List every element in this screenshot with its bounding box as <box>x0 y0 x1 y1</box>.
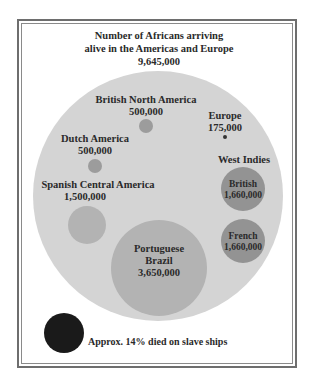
west-indies-british-label: British <box>229 179 258 189</box>
west-indies-british-value: 1,660,000 <box>224 190 262 200</box>
west-indies-label: West Indies <box>218 154 270 165</box>
british-north-america-label: British North America <box>96 94 198 105</box>
bubble-chart: Number of Africans arriving alive in the… <box>0 0 315 382</box>
spanish-central-america-label: Spanish Central America <box>41 179 155 190</box>
spanish-central-america-circle <box>68 206 106 244</box>
chart-title-line-1: Number of Africans arriving <box>95 30 224 41</box>
dutch-america-value: 500,000 <box>78 145 112 156</box>
chart-title-line-2: alive in the Americas and Europe <box>85 43 234 54</box>
europe-label: Europe <box>208 110 241 121</box>
died-on-ships-circle <box>44 313 84 353</box>
dutch-america-label: Dutch America <box>61 133 130 144</box>
portuguese-brazil-value: 3,650,000 <box>138 267 180 278</box>
west-indies-french-value: 1,660,000 <box>224 242 262 252</box>
died-on-ships-label: Approx. 14% died on slave ships <box>88 336 227 347</box>
europe-value: 175,000 <box>208 122 242 133</box>
west-indies-french-label: French <box>229 231 259 241</box>
portuguese-brazil-label-line-2: Brazil <box>145 255 172 266</box>
west-indies-british-circle <box>221 167 265 211</box>
chart-total: 9,645,000 <box>138 56 180 67</box>
spanish-central-america-value: 1,500,000 <box>64 191 106 202</box>
british-north-america-value: 500,000 <box>129 106 163 117</box>
dutch-america-circle <box>88 159 102 173</box>
west-indies-french-circle <box>221 219 265 263</box>
portuguese-brazil-label-line-1: Portuguese <box>134 243 184 254</box>
europe-dot <box>223 135 227 139</box>
british-north-america-circle <box>139 119 153 133</box>
